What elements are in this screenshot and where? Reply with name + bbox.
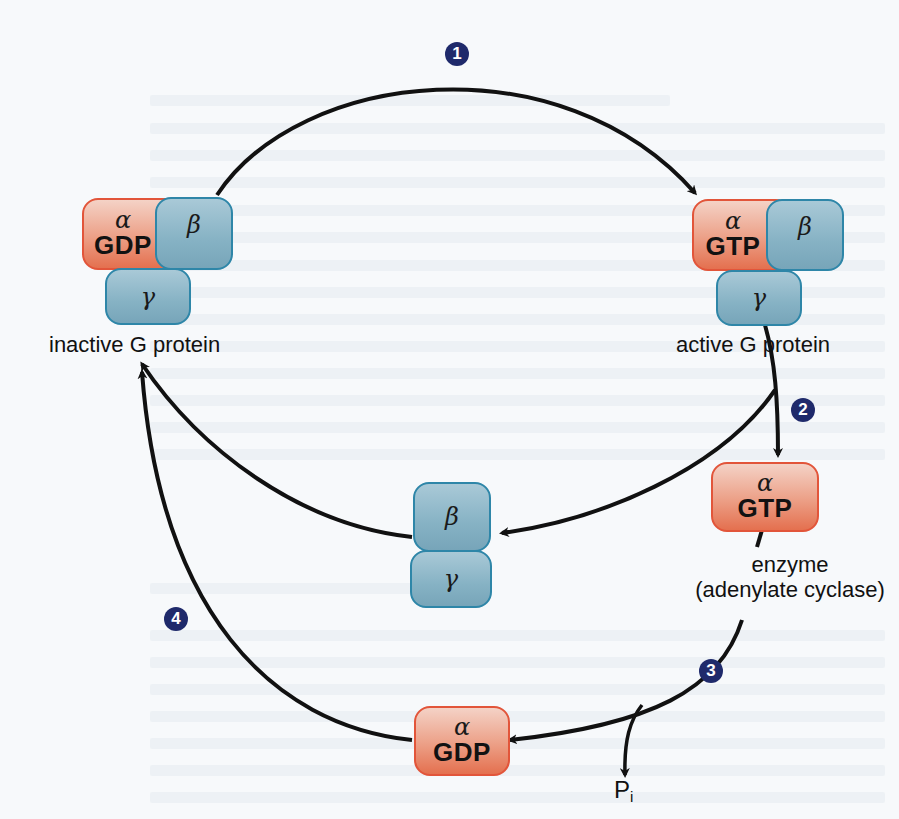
step-badge-3: 3 — [699, 659, 723, 683]
step-number: 1 — [452, 44, 461, 64]
alpha-gdp-subunit: α GDP — [414, 706, 510, 776]
free-gamma-subunit: γ — [410, 550, 492, 608]
alpha-symbol: α — [454, 715, 470, 739]
step-number: 4 — [171, 609, 180, 629]
active-gamma-subunit: γ — [716, 270, 802, 326]
cycle-arrows — [0, 0, 899, 819]
nucleotide-label: GDP — [94, 232, 152, 259]
step-number: 3 — [706, 661, 715, 681]
arrow-beta-gamma-return — [142, 364, 412, 537]
enzyme-alpha-subunit: α GTP — [711, 462, 819, 532]
free-beta-subunit: β — [413, 482, 491, 552]
phosphate-symbol: P — [614, 776, 630, 803]
nucleotide-label: GDP — [433, 739, 491, 766]
active-beta-subunit: β — [766, 199, 844, 271]
step-badge-1: 1 — [445, 42, 469, 66]
enzyme-label-line2: (adenylate cyclase) — [690, 577, 890, 602]
nucleotide-label: GTP — [738, 495, 793, 522]
step-number: 2 — [798, 400, 807, 420]
nucleotide-label: GTP — [706, 233, 761, 260]
inactive-gamma-subunit: γ — [105, 268, 191, 325]
step-badge-4: 4 — [164, 607, 188, 631]
alpha-symbol: α — [115, 208, 131, 232]
gamma-symbol: γ — [141, 285, 155, 309]
gamma-symbol: γ — [752, 286, 766, 310]
arrow-step-1 — [217, 89, 695, 195]
beta-symbol: β — [187, 213, 201, 237]
enzyme-connector-top — [757, 530, 762, 547]
gamma-symbol: γ — [444, 567, 458, 591]
beta-symbol: β — [445, 505, 459, 529]
alpha-symbol: α — [757, 471, 773, 495]
active-g-protein-label: active G protein — [676, 332, 830, 357]
enzyme-label: enzyme (adenylate cyclase) — [690, 552, 890, 603]
step-badge-2: 2 — [791, 398, 815, 422]
inactive-beta-subunit: β — [155, 197, 233, 270]
alpha-symbol: α — [725, 209, 741, 233]
enzyme-label-line1: enzyme — [690, 552, 890, 577]
inactive-g-protein-label: inactive G protein — [49, 332, 220, 357]
inorganic-phosphate-label: Pi — [614, 776, 633, 805]
beta-symbol: β — [798, 215, 812, 239]
phosphate-subscript: i — [630, 788, 633, 805]
arrow-step-4 — [142, 372, 412, 740]
